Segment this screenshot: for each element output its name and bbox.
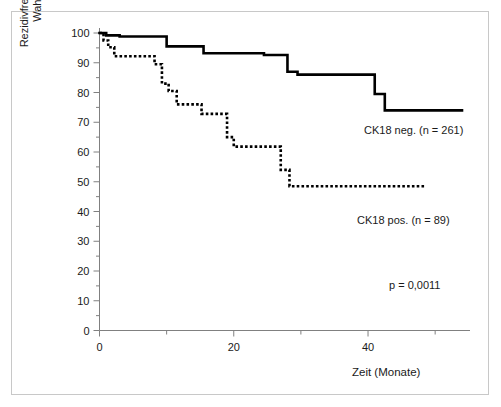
series-path-ck18-neg (100, 33, 463, 110)
p-value-annotation: p = 0,0011 (389, 279, 440, 291)
y-tick-label: 0 (56, 325, 90, 337)
y-tick-label: 70 (56, 116, 90, 128)
series-label-ck18-pos: CK18 pos. (n = 89) (357, 214, 450, 226)
y-tick-label: 10 (56, 295, 90, 307)
x-tick-label: 0 (96, 341, 102, 353)
y-axis-title: Rezidivfreies Gesamtüberleben – Wahrsche… (18, 0, 42, 86)
series-label-ck18-neg: CK18 neg. (n = 261) (364, 124, 463, 136)
x-tick-label: 20 (228, 341, 240, 353)
y-tick-label: 60 (56, 146, 90, 158)
y-tick-label: 50 (56, 176, 90, 188)
y-tick-label: 100 (56, 27, 90, 39)
y-tick-label: 40 (56, 206, 90, 218)
y-tick-label: 80 (56, 87, 90, 99)
x-axis-title: Zeit (Monate) (352, 366, 420, 378)
y-tick-label: 20 (56, 265, 90, 277)
y-tick-label: 90 (56, 57, 90, 69)
data-series (100, 33, 463, 186)
series-path-ck18-pos (100, 33, 426, 186)
y-tick-label: 30 (56, 235, 90, 247)
x-tick-label: 40 (362, 341, 374, 353)
